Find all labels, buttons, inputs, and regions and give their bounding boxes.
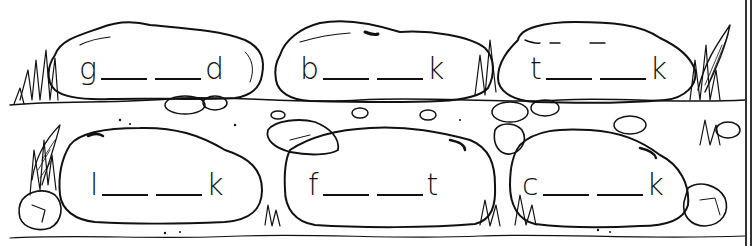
blank-input[interactable] — [102, 194, 148, 196]
word-puzzle-g-d: g d — [79, 54, 224, 84]
rock-illustration — [0, 0, 752, 246]
blank-input[interactable] — [597, 194, 643, 196]
word-puzzle-c-k: c k — [522, 170, 664, 200]
pebble-icon — [165, 96, 740, 138]
last-letter: k — [427, 54, 444, 84]
last-letter: k — [650, 54, 667, 84]
word-puzzle-l-k: l k — [90, 170, 224, 200]
last-letter: k — [206, 170, 223, 200]
rock-icon — [19, 191, 61, 230]
last-letter: d — [205, 54, 224, 84]
blank-input[interactable] — [155, 78, 201, 80]
first-letter: t — [530, 54, 542, 84]
first-letter: b — [300, 54, 319, 84]
blank-input[interactable] — [546, 78, 592, 80]
fern-icon — [32, 125, 60, 185]
blank-input[interactable] — [323, 194, 369, 196]
first-letter: c — [522, 170, 539, 200]
word-puzzle-b-k: b k — [300, 54, 444, 84]
blank-input[interactable] — [377, 194, 423, 196]
last-letter: t — [427, 170, 439, 200]
page-border — [745, 0, 752, 246]
blank-input[interactable] — [543, 194, 589, 196]
blank-input[interactable] — [156, 194, 202, 196]
first-letter: f — [308, 170, 319, 200]
first-letter: g — [79, 54, 97, 84]
worksheet: g d b k t k l k f t c k — [0, 0, 752, 246]
word-puzzle-f-t: f t — [308, 170, 438, 200]
last-letter: k — [647, 170, 664, 200]
word-puzzle-t-k: t k — [530, 54, 667, 84]
blank-input[interactable] — [323, 78, 369, 80]
blank-input[interactable] — [101, 78, 147, 80]
blank-input[interactable] — [600, 78, 646, 80]
first-letter: l — [90, 170, 98, 200]
blank-input[interactable] — [377, 78, 423, 80]
rock-icon — [267, 120, 338, 154]
